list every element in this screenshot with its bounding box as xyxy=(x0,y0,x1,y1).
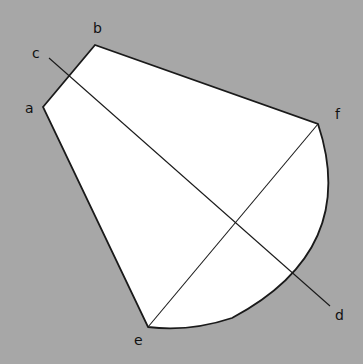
label-f: f xyxy=(335,106,341,122)
label-c: c xyxy=(32,45,40,61)
geometry-diagram: a b c d e f xyxy=(0,0,363,364)
label-a: a xyxy=(25,100,34,116)
label-d: d xyxy=(335,307,344,323)
shape-outline xyxy=(43,45,328,328)
label-b: b xyxy=(93,20,102,36)
label-e: e xyxy=(134,332,143,348)
